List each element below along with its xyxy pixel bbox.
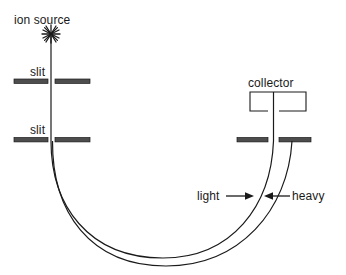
slit-1-right-bar xyxy=(55,79,90,83)
slit-1-label: slit xyxy=(30,66,45,78)
collector-slit-right-bar xyxy=(279,138,311,142)
ion-source-label: ion source xyxy=(14,14,70,26)
light-arrow-icon xyxy=(226,192,254,200)
slit-1-left-bar xyxy=(14,79,48,83)
light-ion-label: light xyxy=(197,190,220,202)
light-ion-path xyxy=(51,141,274,258)
heavy-ion-path xyxy=(52,141,292,266)
heavy-ion-label: heavy xyxy=(292,190,325,202)
mass-spectrometer-diagram: ion source slit slit collector light hea… xyxy=(0,0,346,275)
diagram-canvas xyxy=(0,0,346,275)
collector-box xyxy=(250,92,306,111)
slit-2-right-bar xyxy=(55,138,90,142)
slit-2-left-bar xyxy=(14,138,48,142)
slit-2-label: slit xyxy=(30,124,45,136)
collector-slit-left-bar xyxy=(237,138,268,142)
collector-label: collector xyxy=(248,77,294,89)
